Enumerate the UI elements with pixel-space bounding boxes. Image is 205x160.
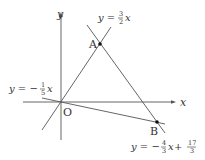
- svg-text:y = −: y = −: [8, 83, 38, 94]
- equation-label-line-c: y = − 1 5 x: [8, 81, 53, 97]
- point-b-label: B: [150, 125, 158, 138]
- svg-text:1: 1: [41, 81, 45, 89]
- equation-label-line-b: y = − 4 3 x + 17 3: [130, 139, 196, 155]
- svg-text:4: 4: [162, 139, 166, 147]
- coordinate-plane: x y O A B y = 3 2 x y = − 1 5 x y = − 4 …: [0, 0, 205, 160]
- y-axis-label: y: [56, 8, 64, 21]
- origin-label: O: [63, 106, 72, 119]
- svg-text:17: 17: [188, 139, 196, 147]
- svg-text:x: x: [125, 12, 131, 23]
- svg-text:3: 3: [190, 147, 194, 155]
- point-b: [155, 120, 159, 124]
- svg-text:y =: y =: [97, 12, 115, 23]
- point-a-label: A: [88, 38, 98, 51]
- line-y-neg4-3-x-plus-17-3: [87, 25, 165, 133]
- equation-label-line-a: y = 3 2 x: [97, 10, 131, 26]
- svg-text:3: 3: [119, 10, 123, 18]
- svg-text:x: x: [47, 83, 53, 94]
- svg-text:5: 5: [41, 89, 45, 97]
- svg-text:y = −: y = −: [130, 141, 160, 152]
- x-axis-arrow-icon: [171, 100, 176, 104]
- point-a: [98, 42, 102, 46]
- x-axis-label: x: [180, 96, 187, 109]
- svg-text:3: 3: [162, 147, 166, 155]
- diagram-canvas: x y O A B y = 3 2 x y = − 1 5 x y = − 4 …: [0, 0, 205, 160]
- svg-text:+: +: [174, 141, 182, 152]
- svg-text:2: 2: [119, 18, 123, 26]
